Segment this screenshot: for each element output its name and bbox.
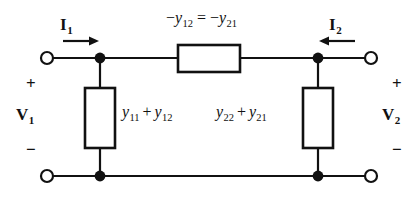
voltage-label-v1: V1 bbox=[16, 106, 34, 126]
top-left-terminal bbox=[41, 52, 53, 64]
top-right-node bbox=[313, 53, 324, 64]
current-label-i2-subscript: 2 bbox=[336, 24, 342, 36]
current-label-i1: I1 bbox=[60, 16, 73, 36]
right-shunt-symbol-2: y bbox=[249, 103, 256, 120]
voltage-label-v1-symbol: V bbox=[16, 105, 28, 124]
current-arrow-i2-head bbox=[319, 36, 329, 45]
polarity-minus-right: − bbox=[392, 141, 402, 158]
left-shunt-label: y11+y12 bbox=[122, 104, 172, 124]
polarity-plus-left: + bbox=[26, 75, 36, 92]
left-shunt-symbol-2: y bbox=[155, 103, 162, 120]
two-port-circuit-diagram: I1 I2 −y12=−y21 y11+y12 y22+y21 V1 V2 + … bbox=[0, 0, 418, 198]
bottom-left-terminal bbox=[41, 170, 53, 182]
series-branch-subscript-2: 21 bbox=[226, 18, 237, 29]
series-branch-label: −y12=−y21 bbox=[166, 10, 237, 30]
voltage-label-v2: V2 bbox=[382, 106, 400, 126]
series-branch-minus-1: − bbox=[166, 9, 175, 26]
current-label-i2-symbol: I bbox=[329, 15, 336, 34]
series-branch-equals: = bbox=[193, 9, 210, 26]
right-shunt-subscript-2: 21 bbox=[256, 112, 267, 123]
current-label-i1-subscript: 1 bbox=[67, 24, 73, 36]
left-shunt-subscript-2: 12 bbox=[162, 112, 173, 123]
right-shunt-label: y22+y21 bbox=[216, 104, 267, 124]
bottom-right-terminal bbox=[365, 170, 377, 182]
right-shunt-plus: + bbox=[234, 103, 249, 120]
left-shunt-impedance-box bbox=[85, 88, 115, 148]
top-right-terminal bbox=[365, 52, 377, 64]
current-label-i1-symbol: I bbox=[60, 15, 67, 34]
bottom-left-node bbox=[95, 171, 106, 182]
voltage-label-v2-subscript: 2 bbox=[395, 114, 401, 126]
left-shunt-subscript-1: 11 bbox=[129, 112, 139, 123]
polarity-plus-right: + bbox=[392, 75, 402, 92]
series-branch-subscript-1: 12 bbox=[182, 18, 193, 29]
current-label-i2: I2 bbox=[329, 16, 342, 36]
right-shunt-impedance-box bbox=[303, 88, 333, 148]
voltage-label-v2-symbol: V bbox=[382, 105, 394, 124]
top-left-node bbox=[95, 53, 106, 64]
left-shunt-plus: + bbox=[140, 103, 155, 120]
series-impedance-box bbox=[178, 45, 240, 72]
right-shunt-subscript-1: 22 bbox=[223, 112, 234, 123]
current-arrow-i1-head bbox=[89, 36, 99, 45]
bottom-right-node bbox=[313, 171, 324, 182]
voltage-label-v1-subscript: 1 bbox=[29, 114, 35, 126]
series-branch-minus-2: − bbox=[210, 9, 219, 26]
polarity-minus-left: − bbox=[26, 141, 36, 158]
